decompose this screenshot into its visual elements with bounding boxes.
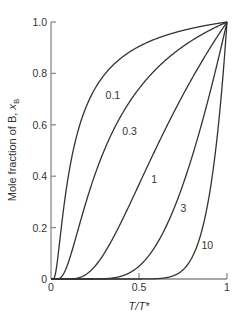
curve-label: 1 (151, 173, 157, 185)
y-tick-label: 0.4 (32, 170, 47, 182)
x-ticks: 00.51 (48, 273, 230, 293)
curve-label: 0.1 (106, 89, 121, 101)
curve-label: 0.3 (122, 125, 137, 137)
x-axis-title: T/T* (129, 300, 151, 312)
y-tick-label: 0.6 (32, 119, 47, 131)
curve-label: 3 (180, 202, 186, 214)
chart: 00.20.40.60.81.0 00.51 0.10.31310 Mole f… (0, 0, 240, 324)
y-tick-label: 0 (41, 273, 47, 285)
x-tick-label: 0.5 (132, 281, 147, 293)
y-tick-label: 1.0 (32, 16, 47, 28)
y-tick-label: 0.8 (32, 67, 47, 79)
x-tick-label: 1 (224, 281, 230, 293)
axes: 00.20.40.60.81.0 00.51 (32, 16, 230, 293)
y-axis-title: Mole fraction of B, xB (6, 99, 21, 202)
curve-label: 10 (202, 239, 214, 251)
y-ticks: 00.20.40.60.81.0 (32, 16, 56, 285)
y-tick-label: 0.2 (32, 222, 47, 234)
x-tick-label: 0 (48, 281, 54, 293)
